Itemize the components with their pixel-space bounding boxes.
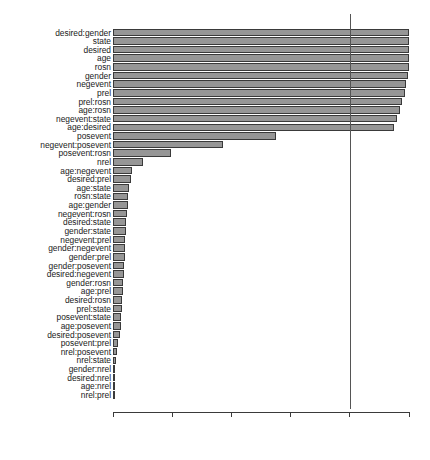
- bar: [113, 210, 127, 218]
- bar: [113, 382, 115, 390]
- bar: [113, 63, 409, 71]
- x-tick: [349, 412, 350, 417]
- bar: [113, 322, 121, 330]
- bar: [113, 54, 409, 62]
- bar: [113, 167, 132, 175]
- bar: [113, 98, 402, 106]
- x-tick: [409, 412, 410, 417]
- bar: [113, 279, 123, 287]
- bar: [113, 365, 115, 373]
- bar: [113, 29, 409, 37]
- x-tick: [290, 412, 291, 417]
- bar: [113, 236, 125, 244]
- bar: [113, 313, 121, 321]
- bar: [113, 201, 128, 209]
- plot-panel: desired:genderstatedesiredagerosngendern…: [0, 0, 430, 460]
- reference-line: [350, 14, 351, 409]
- bar: [113, 357, 116, 365]
- bar: [113, 296, 122, 304]
- variable-importance-bar-chart: desired:genderstatedesiredagerosngendern…: [0, 0, 430, 460]
- bar: [113, 331, 120, 339]
- bar: [113, 124, 394, 132]
- x-tick: [113, 412, 114, 417]
- bar: [113, 106, 400, 114]
- bar: [113, 193, 128, 201]
- bar: [113, 227, 126, 235]
- x-tick: [231, 412, 232, 417]
- bar: [113, 80, 406, 88]
- x-axis-line: [113, 412, 409, 413]
- bar: [113, 175, 131, 183]
- bar: [113, 374, 115, 382]
- bar: [113, 244, 125, 252]
- bar: [113, 89, 405, 97]
- bar: [113, 305, 122, 313]
- x-tick: [172, 412, 173, 417]
- bar: [113, 270, 124, 278]
- bar: [113, 262, 124, 270]
- bar: [113, 37, 409, 45]
- bar: [113, 287, 123, 295]
- bar: [113, 72, 408, 80]
- bar: [113, 132, 276, 140]
- bar: [113, 339, 118, 347]
- bar: [113, 391, 115, 399]
- bar: [113, 46, 409, 54]
- bar: [113, 149, 171, 157]
- bar: [113, 158, 143, 166]
- bar: [113, 184, 129, 192]
- bar-row: nrel:prel: [0, 390, 430, 399]
- bar: [113, 348, 117, 356]
- bar: [113, 115, 397, 123]
- bar: [113, 218, 126, 226]
- bar: [113, 253, 125, 261]
- bar: [113, 141, 223, 149]
- bar-category-label: nrel:prel: [81, 390, 111, 399]
